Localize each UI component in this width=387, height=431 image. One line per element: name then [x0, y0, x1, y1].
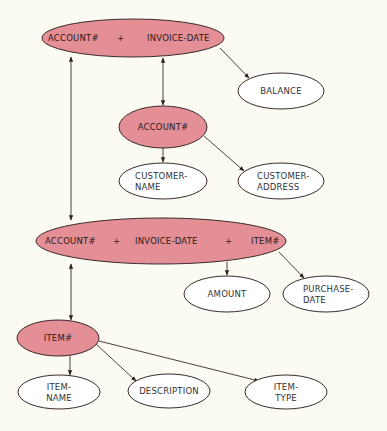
node-text: ITEM-: [274, 382, 298, 392]
node-amount: AMOUNT: [184, 276, 270, 312]
node-text: NAME: [135, 182, 161, 192]
node-text: PURCHASE-: [303, 284, 354, 294]
node-text: DATE: [303, 295, 326, 305]
dependency-diagram: ACCOUNT# + INVOICE-DATE BALANCE ACCOUNT#…: [0, 0, 387, 431]
node-text: INVOICE-DATE: [147, 33, 210, 43]
node-text: AMOUNT: [208, 289, 247, 299]
node-text: DESCRIPTION: [139, 386, 199, 396]
node-text: ITEM#: [251, 236, 280, 246]
node-item-name: ITEM- NAME: [18, 375, 100, 409]
edge-n3-n5: [204, 136, 244, 171]
node-text: +: [117, 33, 124, 43]
node-account-invoice-date: ACCOUNT# + INVOICE-DATE: [42, 19, 224, 57]
node-purchase-date: PURCHASE- DATE: [283, 276, 369, 312]
node-description: DESCRIPTION: [128, 374, 210, 408]
edge-n6-n8: [279, 252, 304, 278]
node-text: CUSTOMER-: [257, 171, 310, 181]
node-text: ACCOUNT#: [45, 236, 96, 246]
node-text: BALANCE: [260, 86, 301, 96]
node-customer-address: CUSTOMER- ADDRESS: [238, 163, 324, 199]
edge-n9-n11: [96, 344, 136, 381]
node-text: NAME: [46, 393, 72, 403]
node-customer-name: CUSTOMER- NAME: [119, 163, 207, 199]
node-account-invoice-date-item: ACCOUNT# + INVOICE-DATE + ITEM#: [36, 218, 286, 264]
node-text: TYPE: [274, 393, 297, 403]
node-item-type: ITEM- TYPE: [245, 375, 327, 409]
node-text: +: [113, 236, 120, 246]
node-text: CUSTOMER-: [135, 171, 188, 181]
node-balance: BALANCE: [238, 73, 324, 109]
node-text: ACCOUNT#: [138, 122, 189, 132]
node-text: ITEM-: [47, 382, 71, 392]
node-account: ACCOUNT#: [119, 106, 207, 148]
node-item: ITEM#: [17, 320, 99, 356]
node-text: ADDRESS: [257, 182, 299, 192]
node-text: ITEM#: [44, 333, 73, 343]
node-text: ACCOUNT#: [48, 33, 99, 43]
node-text: +: [225, 236, 232, 246]
edge-n1-n2: [220, 48, 249, 78]
node-text: INVOICE-DATE: [135, 236, 198, 246]
